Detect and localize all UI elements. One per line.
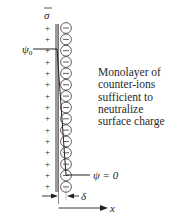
caption-line: counter-ions bbox=[98, 78, 174, 90]
plus-sign: + bbox=[45, 181, 50, 191]
counter-ion bbox=[61, 68, 72, 79]
counter-ion bbox=[61, 57, 72, 68]
surface-charges: +++++++++++++++ bbox=[45, 23, 50, 192]
caption-line: neutralize bbox=[98, 103, 174, 115]
x-axis: x bbox=[59, 202, 116, 214]
plus-sign: + bbox=[45, 79, 50, 89]
svg-text:ψ0: ψ0 bbox=[22, 43, 33, 57]
plus-sign: + bbox=[45, 91, 50, 101]
plus-sign: + bbox=[45, 23, 50, 33]
x-axis-label: x bbox=[109, 202, 115, 214]
sigma-text: σ bbox=[44, 9, 50, 21]
plus-sign: + bbox=[45, 102, 50, 112]
counter-ion bbox=[61, 136, 72, 147]
caption-line: sufficient to bbox=[98, 91, 174, 103]
arrow-left-icon bbox=[67, 194, 74, 199]
counter-ion bbox=[61, 159, 72, 170]
counter-ion bbox=[61, 34, 72, 45]
plus-sign: + bbox=[45, 170, 50, 180]
caption-line: Monolayer of bbox=[98, 66, 174, 78]
arrow-right-icon bbox=[51, 194, 58, 199]
plus-sign: + bbox=[45, 45, 50, 55]
plus-sign: + bbox=[45, 68, 50, 78]
axis-arrow-icon bbox=[100, 205, 108, 211]
counter-ion bbox=[61, 147, 72, 158]
caption-line: surface charge bbox=[98, 115, 174, 127]
plus-sign: + bbox=[45, 159, 50, 169]
plus-sign: + bbox=[45, 113, 50, 123]
plus-sign: + bbox=[45, 34, 50, 44]
counter-ions bbox=[61, 23, 72, 193]
sigma-label: σ bbox=[44, 8, 52, 21]
counter-ion bbox=[61, 91, 72, 102]
counter-ion bbox=[61, 79, 72, 90]
delta-label: δ bbox=[81, 190, 87, 202]
caption: Monolayer of counter-ions sufficient to … bbox=[98, 66, 174, 127]
plus-sign: + bbox=[45, 136, 50, 146]
plus-sign: + bbox=[45, 147, 50, 157]
psi0-label: ψ0 bbox=[22, 43, 33, 57]
plus-sign: + bbox=[45, 57, 50, 67]
counter-ion bbox=[61, 45, 72, 56]
plus-sign: + bbox=[45, 125, 50, 135]
counter-ion bbox=[61, 102, 72, 113]
counter-ion bbox=[61, 23, 72, 34]
psi-zero-label: ψ = 0 bbox=[93, 169, 119, 181]
